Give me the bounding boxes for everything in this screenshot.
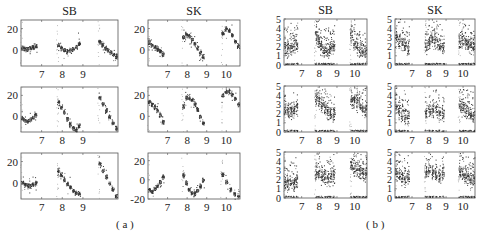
- scatter-points: [20, 21, 118, 65]
- x-tick-label: 10: [349, 67, 361, 79]
- x-tick-label: 7: [409, 134, 415, 146]
- x-tick-label: 7: [39, 201, 45, 213]
- y-tick-label: 5: [276, 81, 281, 92]
- panel-b-sk-row1: SK78910012345: [387, 3, 475, 79]
- y-tick-label: 5: [387, 81, 392, 92]
- caption-a: ( a ): [116, 218, 134, 230]
- panel-b-sb-row2: 78910012345: [276, 81, 367, 147]
- x-tick-label: 7: [165, 134, 171, 146]
- scatter-points: [147, 20, 240, 66]
- x-tick-label: 7: [39, 68, 45, 80]
- x-tick-label: 7: [299, 134, 305, 146]
- x-tick-label: 8: [60, 201, 66, 213]
- panel-a-sb-row2: 789020: [7, 87, 118, 146]
- axes-frame: [148, 153, 240, 199]
- x-tick-label: 10: [349, 134, 361, 146]
- panel-b-sb-row1: SB78910012345: [276, 3, 367, 79]
- x-tick-label: 8: [184, 201, 190, 213]
- y-tick-label: 5: [276, 147, 281, 158]
- y-tick-label: 0: [13, 177, 19, 189]
- y-tick-label: 0: [140, 174, 146, 186]
- x-tick-label: 10: [221, 201, 233, 213]
- y-tick-label: 5: [387, 14, 392, 25]
- scatter-points: [394, 86, 475, 132]
- x-tick-label: 8: [184, 134, 190, 146]
- y-tick-label: 20: [134, 89, 146, 101]
- panel-title: SK: [186, 4, 202, 18]
- x-tick-label: 9: [334, 134, 340, 146]
- panel-a-sk-row1: SK78910020: [134, 4, 240, 80]
- y-tick-label: 0: [140, 110, 146, 122]
- x-tick-label: 7: [299, 200, 305, 212]
- figure-canvas: SB789020SK789100207890207891002078902078…: [0, 0, 480, 237]
- scatter-points: [148, 156, 240, 200]
- scatter-points: [283, 20, 367, 65]
- x-tick-label: 7: [409, 200, 415, 212]
- scatter-points: [394, 19, 475, 66]
- x-tick-label: 9: [80, 68, 86, 80]
- x-tick-label: 8: [426, 134, 432, 146]
- x-tick-label: 10: [458, 200, 470, 212]
- y-tick-label: 20: [134, 23, 146, 35]
- x-tick-label: 10: [349, 200, 361, 212]
- x-tick-label: 10: [458, 67, 470, 79]
- x-tick-label: 7: [299, 67, 305, 79]
- caption-b: ( b ): [366, 218, 384, 230]
- x-tick-label: 10: [221, 134, 233, 146]
- x-tick-label: 7: [39, 134, 45, 146]
- x-tick-label: 9: [334, 200, 340, 212]
- scatter-points: [20, 155, 118, 199]
- x-tick-label: 8: [317, 200, 323, 212]
- x-tick-label: 10: [458, 134, 470, 146]
- y-tick-label: -20: [130, 193, 145, 205]
- x-tick-label: 7: [165, 68, 171, 80]
- y-tick-label: 0: [13, 110, 19, 122]
- panel-a-sk-row3: 78910-20020: [130, 153, 240, 213]
- x-tick-label: 8: [184, 68, 190, 80]
- x-tick-label: 7: [165, 201, 171, 213]
- y-tick-label: 5: [276, 14, 281, 25]
- y-tick-label: 20: [7, 89, 19, 101]
- x-tick-label: 8: [60, 68, 66, 80]
- x-tick-label: 9: [443, 67, 449, 79]
- y-tick-label: 20: [7, 156, 19, 168]
- panel-title: SK: [427, 3, 443, 17]
- panel-a-sb-row3: 789020: [7, 153, 118, 213]
- y-tick-label: 0: [13, 44, 19, 56]
- panel-b-sk-row2: 78910012345: [387, 81, 475, 147]
- x-tick-label: 8: [426, 67, 432, 79]
- panel-a-sk-row2: 78910020: [134, 87, 240, 146]
- scatter-points: [283, 86, 367, 132]
- scatter-points: [394, 152, 475, 198]
- scatter-points: [20, 87, 118, 133]
- y-tick-label: 5: [387, 147, 392, 158]
- x-tick-label: 8: [426, 200, 432, 212]
- x-tick-label: 7: [409, 67, 415, 79]
- panel-title: SB: [318, 3, 333, 17]
- x-tick-label: 10: [221, 68, 233, 80]
- x-tick-label: 8: [317, 134, 323, 146]
- x-tick-label: 9: [443, 200, 449, 212]
- x-tick-label: 9: [80, 134, 86, 146]
- panel-b-sb-row3: 78910012345: [276, 147, 367, 213]
- x-tick-label: 9: [80, 201, 86, 213]
- panel-title: SB: [62, 4, 77, 18]
- x-tick-label: 8: [60, 134, 66, 146]
- x-tick-label: 9: [204, 134, 210, 146]
- x-tick-label: 9: [204, 68, 210, 80]
- x-tick-label: 8: [317, 67, 323, 79]
- scatter-points: [283, 152, 367, 198]
- y-tick-label: 20: [134, 155, 146, 167]
- panel-a-sb-row1: SB789020: [7, 4, 118, 80]
- x-tick-label: 9: [204, 201, 210, 213]
- panel-b-sk-row3: 78910012345: [387, 147, 475, 213]
- axes-frame: [21, 153, 118, 199]
- y-tick-label: 20: [7, 23, 19, 35]
- y-tick-label: 0: [140, 44, 146, 56]
- x-tick-label: 9: [443, 134, 449, 146]
- x-tick-label: 9: [334, 67, 340, 79]
- scatter-points: [147, 87, 240, 132]
